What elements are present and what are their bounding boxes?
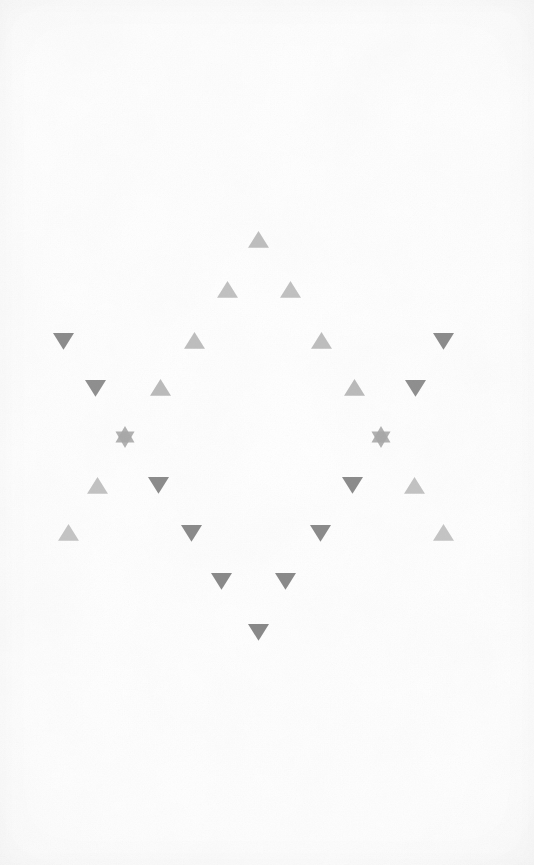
marker-triangle-up xyxy=(280,281,301,298)
marker-triangle-down xyxy=(248,624,269,641)
marker-triangle-up xyxy=(404,477,425,494)
marker-triangle-down xyxy=(181,525,202,542)
marker-triangle-down xyxy=(342,477,363,494)
marker-star-six xyxy=(370,426,392,448)
marker-triangle-down xyxy=(148,477,169,494)
marker-triangle-up xyxy=(217,281,238,298)
marker-triangle-up xyxy=(433,524,454,541)
marker-star-six xyxy=(114,426,136,448)
marker-triangle-down xyxy=(433,333,454,350)
marker-triangle-up xyxy=(184,332,205,349)
marker-triangle-up xyxy=(344,379,365,396)
marker-triangle-up xyxy=(58,524,79,541)
marker-triangle-up xyxy=(150,379,171,396)
marker-triangle-up xyxy=(311,332,332,349)
marker-triangle-down xyxy=(310,525,331,542)
marker-triangle-up xyxy=(248,231,269,248)
marker-triangle-down xyxy=(275,573,296,590)
marker-triangle-down xyxy=(405,380,426,397)
marker-layer xyxy=(0,0,534,865)
figure-canvas xyxy=(0,0,534,865)
marker-triangle-down xyxy=(211,573,232,590)
marker-triangle-up xyxy=(87,477,108,494)
marker-triangle-down xyxy=(85,380,106,397)
marker-triangle-down xyxy=(53,333,74,350)
